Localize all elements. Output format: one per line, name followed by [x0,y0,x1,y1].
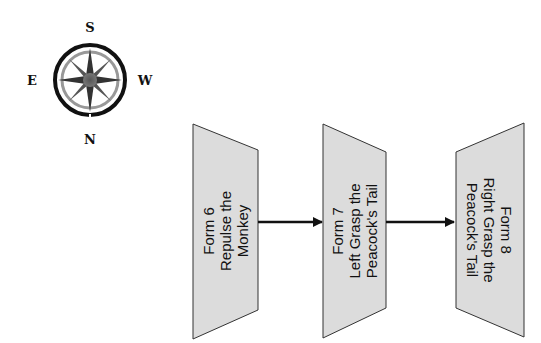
form-7-line-3: Peacock's Tail [363,184,380,278]
form-8-line-1: Form 8 [498,206,515,254]
form-7-node: Form 7 Left Grasp the Peacock's Tail [323,124,386,338]
form-7-line-2: Left Grasp the [346,183,363,278]
compass-label-top: S [85,20,94,35]
form-6-line-1: Form 6 [200,207,217,255]
compass-label-left: E [27,73,37,88]
form-7-line-1: Form 7 [329,207,346,255]
compass-label-right: W [137,73,153,88]
form-6-node: Form 6 Repulse the Monkey [193,124,258,339]
form-6-line-3: Monkey [234,204,251,257]
form-6-line-2: Repulse the [217,191,234,271]
diagram-canvas: S N E W Form 6 Repulse the Monkey Form 7… [0,0,541,343]
compass-rose-icon [55,45,125,118]
compass-label-bottom: N [84,132,96,147]
form-8-line-2: Right Grasp the [481,177,498,282]
form-8-line-3: Peacock's Tail [464,183,481,277]
form-8-node: Form 8 Right Grasp the Peacock's Tail [456,123,524,337]
